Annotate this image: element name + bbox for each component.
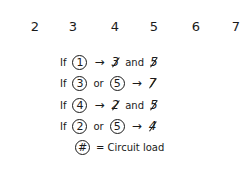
- rule-4: If 2 or 5 → 4: [57, 116, 159, 136]
- circled-number: 2: [72, 119, 87, 134]
- struck-number: 2: [112, 98, 120, 112]
- struck-number: 3: [112, 55, 120, 69]
- circled-number: 4: [72, 98, 87, 113]
- arrow-icon: →: [94, 55, 104, 69]
- number-7: 7: [230, 19, 242, 34]
- circled-number: 3: [72, 76, 87, 91]
- struck-number: 7: [149, 76, 157, 90]
- arrow-icon: →: [132, 76, 142, 90]
- number-3: 3: [67, 19, 79, 34]
- or-label: or: [93, 78, 103, 89]
- circled-hash-icon: #: [75, 140, 90, 155]
- if-label: If: [60, 100, 66, 111]
- circled-number: 5: [110, 119, 125, 134]
- if-label: If: [60, 57, 66, 68]
- and-label: and: [125, 100, 144, 111]
- legend-text: = Circuit load: [96, 142, 164, 153]
- number-2: 2: [29, 19, 41, 34]
- number-5: 5: [148, 19, 160, 34]
- circled-number: 5: [110, 76, 125, 91]
- number-4: 4: [109, 19, 121, 34]
- circled-number: 1: [72, 55, 87, 70]
- rule-2: If 3 or 5 → 7: [57, 73, 159, 93]
- if-label: If: [60, 78, 66, 89]
- if-label: If: [60, 121, 66, 132]
- struck-number: 4: [149, 119, 157, 133]
- struck-number: 5: [150, 55, 158, 69]
- struck-number: 5: [150, 98, 158, 112]
- rule-1: If 1 → 3 and 5: [57, 52, 161, 72]
- number-6: 6: [190, 19, 202, 34]
- rule-3: If 4 → 2 and 5: [57, 95, 161, 115]
- and-label: and: [125, 57, 144, 68]
- or-label: or: [93, 121, 103, 132]
- arrow-icon: →: [132, 119, 142, 133]
- legend: # = Circuit load: [72, 137, 167, 157]
- arrow-icon: →: [94, 98, 104, 112]
